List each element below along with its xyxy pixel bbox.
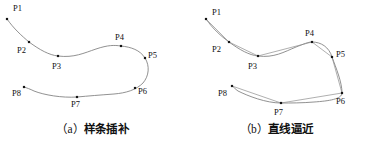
control-point-label-p1: P1 xyxy=(13,4,22,13)
control-point-label-p2: P2 xyxy=(17,46,26,55)
spline-diagram-canvas: P1P2P3P4P5P6P7P8 xyxy=(0,0,185,120)
control-point-label-p8: P8 xyxy=(218,89,227,98)
linear-panel-caption: （b）直线逼近 xyxy=(184,122,369,136)
spline-panel-caption: （a）样条插补 xyxy=(0,122,185,136)
control-point-label-p1: P1 xyxy=(212,8,221,17)
control-point-dot-p7 xyxy=(76,96,78,98)
figure-panel-spline: P1P2P3P4P5P6P7P8 （a）样条插补 xyxy=(0,0,185,148)
figure-panel-linear: P1P2P3P4P5P6P7P8 （b）直线逼近 xyxy=(184,0,369,148)
control-point-label-p6: P6 xyxy=(336,97,345,106)
control-point-label-p2: P2 xyxy=(212,45,221,54)
control-point-dot-p4 xyxy=(120,45,122,47)
control-point-dot-p4 xyxy=(311,41,313,43)
control-point-dot-p2 xyxy=(228,41,230,43)
control-point-label-p7: P7 xyxy=(274,108,283,117)
spline-control-point-dots xyxy=(6,18,146,98)
spline-curve-path xyxy=(7,19,148,97)
control-point-label-p3: P3 xyxy=(248,62,257,71)
linear-caption-index: （b） xyxy=(240,123,268,135)
control-point-dot-p3 xyxy=(57,55,59,57)
control-point-dot-p3 xyxy=(257,55,259,57)
control-point-dot-p8 xyxy=(23,86,25,88)
control-point-dot-p8 xyxy=(231,85,233,87)
control-point-dot-p5 xyxy=(144,57,146,59)
spline-caption-text: 样条插补 xyxy=(84,123,129,135)
control-point-dot-p5 xyxy=(331,56,333,58)
control-point-label-p4: P4 xyxy=(305,29,314,38)
linear-diagram-canvas: P1P2P3P4P5P6P7P8 xyxy=(184,0,369,120)
linear-caption-text: 直线逼近 xyxy=(268,123,313,135)
control-point-dot-p7 xyxy=(280,102,282,104)
control-point-dot-p1 xyxy=(205,18,207,20)
control-point-label-p8: P8 xyxy=(12,89,21,98)
spline-diagram-svg xyxy=(0,0,185,120)
control-point-label-p4: P4 xyxy=(115,33,124,42)
control-point-dot-p2 xyxy=(28,41,30,43)
spline-caption-index: （a） xyxy=(56,123,84,135)
control-point-dot-p1 xyxy=(6,18,8,20)
figure-container: P1P2P3P4P5P6P7P8 （a）样条插补 P1P2P3P4P5P6P7P… xyxy=(0,0,369,148)
control-point-label-p6: P6 xyxy=(138,87,147,96)
control-point-label-p7: P7 xyxy=(71,100,80,109)
control-point-label-p5: P5 xyxy=(336,50,345,59)
control-point-dot-p6 xyxy=(341,92,343,94)
control-point-label-p5: P5 xyxy=(148,51,157,60)
control-point-dot-p6 xyxy=(134,87,136,89)
control-point-label-p3: P3 xyxy=(52,62,61,71)
